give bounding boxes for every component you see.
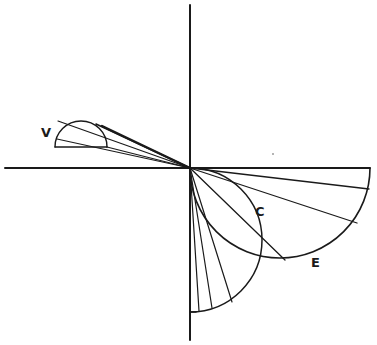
v-rays xyxy=(57,121,190,168)
speck-dot xyxy=(272,153,274,155)
label-v: V xyxy=(41,126,51,139)
label-c: C xyxy=(255,205,265,218)
vector-diagram xyxy=(0,0,377,345)
label-e: E xyxy=(311,256,320,269)
e-rays xyxy=(190,168,369,260)
e-semicircle-arc xyxy=(190,168,370,258)
